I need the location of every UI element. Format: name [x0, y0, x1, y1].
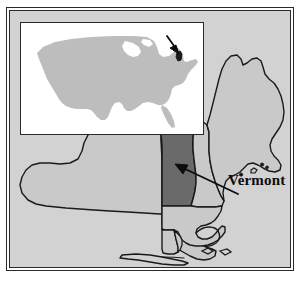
island-coastal-small-3 [266, 166, 269, 169]
vermont-label: Vermont [228, 172, 286, 189]
figure-inner-frame [9, 10, 291, 268]
island-coastal-small-2 [260, 163, 263, 166]
inset-map-svg [21, 23, 203, 134]
united-states-locator-inset [20, 22, 204, 135]
locator-map-figure: Vermont [0, 0, 306, 285]
